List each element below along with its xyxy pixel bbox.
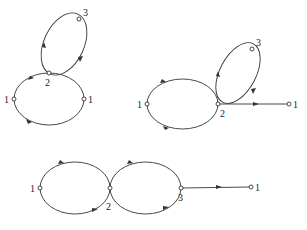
node-label: 1 — [4, 94, 9, 105]
node-label: 1 — [137, 99, 142, 110]
arrow-icon — [251, 88, 256, 94]
graph-diagrams: 3 2 1 1 3 2 1 1 — [0, 0, 307, 230]
node-2 — [216, 102, 220, 106]
node-1-left — [38, 186, 42, 190]
node-1-terminal — [287, 102, 291, 106]
node-3 — [179, 186, 183, 190]
node-1-right — [82, 97, 86, 101]
node-2 — [47, 71, 51, 75]
branch-edge-3-1 — [181, 187, 249, 188]
node-label: 1 — [88, 94, 93, 105]
ellipse-edge-1-2 — [40, 162, 110, 214]
ellipse-edge-1-2 — [147, 79, 218, 129]
node-label: 2 — [106, 201, 111, 212]
node-1-left — [12, 97, 16, 101]
diagram-top-right: 3 2 1 1 — [137, 35, 298, 130]
diagram-bottom: 1 2 3 1 — [30, 160, 260, 214]
node-1-terminal — [249, 185, 253, 189]
arrow-icon — [216, 71, 220, 77]
node-2 — [108, 186, 112, 190]
node-3 — [77, 17, 81, 21]
node-label: 1 — [255, 182, 260, 193]
node-label: 3 — [256, 37, 261, 48]
node-label: 2 — [45, 77, 50, 88]
diagram-top-left: 3 2 1 1 — [4, 6, 96, 125]
node-label: 2 — [220, 108, 225, 119]
node-label: 3 — [83, 7, 88, 18]
node-label: 3 — [178, 192, 183, 203]
node-label: 1 — [293, 99, 298, 110]
node-1-left — [145, 102, 149, 106]
arrow-icon — [253, 102, 259, 106]
arrow-icon — [216, 185, 222, 189]
node-3 — [250, 47, 254, 51]
node-label: 1 — [30, 183, 35, 194]
ellipse-edge-2-3 — [110, 162, 181, 214]
